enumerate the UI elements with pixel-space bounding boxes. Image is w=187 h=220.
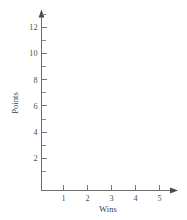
y-tick-label-10: 10 (29, 49, 37, 58)
x-tick-label-5: 5 (157, 194, 161, 203)
y-tick-label-12: 12 (29, 23, 37, 32)
x-tick-label-2: 2 (85, 194, 89, 203)
x-axis-title: Wins (99, 204, 117, 214)
axes-plot-area: 2 4 6 8 10 12 1 2 3 4 5 Wins Points (0, 0, 187, 220)
chart-container: 2 4 6 8 10 12 1 2 3 4 5 Wins Points (0, 0, 187, 220)
x-tick-label-1: 1 (61, 194, 65, 203)
y-tick-label-2: 2 (33, 154, 37, 163)
y-axis-title: Points (10, 92, 20, 114)
y-tick-label-8: 8 (33, 76, 37, 85)
y-tick-label-4: 4 (33, 128, 37, 137)
x-tick-label-4: 4 (133, 194, 137, 203)
y-tick-label-6: 6 (33, 102, 37, 111)
y-axis-arrowhead (39, 10, 45, 18)
x-tick-label-3: 3 (109, 194, 113, 203)
x-axis-arrowhead (170, 188, 178, 194)
